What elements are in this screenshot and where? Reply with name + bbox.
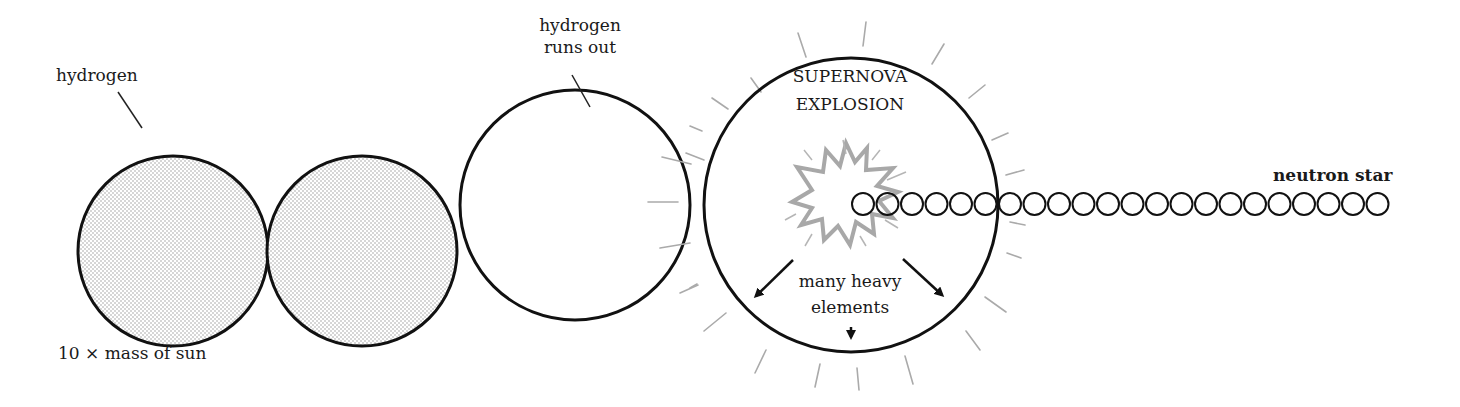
neutron-chain-circle	[1097, 193, 1119, 215]
heavy-elements-line2: elements	[770, 294, 930, 320]
neutron-chain-circle	[926, 193, 948, 215]
neutron-chain-circle	[1318, 193, 1340, 215]
depleted-star-circle	[460, 90, 690, 320]
neutron-chain-circle	[1122, 193, 1144, 215]
supernova-line2: EXPLOSION	[770, 90, 930, 118]
neutron-chain-circle	[1293, 193, 1315, 215]
hydrogen-star-circle-2	[267, 156, 457, 346]
supernova-explosion-label: SUPERNOVA EXPLOSION	[770, 62, 930, 118]
neutron-chain-circle	[1024, 193, 1046, 215]
hydrogen-runs-out-label: hydrogen runs out	[510, 14, 650, 58]
neutron-chain-circle	[950, 193, 972, 215]
star-stage-3	[460, 75, 690, 320]
neutron-chain-circle	[852, 193, 874, 215]
neutron-chain-circle	[1073, 193, 1095, 215]
neutron-chain-circle	[999, 193, 1021, 215]
hydrogen-runs-out-line1: hydrogen	[510, 14, 650, 36]
neutron-chain-circle	[1171, 193, 1193, 215]
neutron-star-label: neutron star	[1273, 164, 1392, 186]
neutron-chain-circle	[1146, 193, 1168, 215]
mass-label: 10 × mass of sun	[58, 342, 206, 364]
supernova-line1: SUPERNOVA	[770, 62, 930, 90]
neutron-chain-circle	[1220, 193, 1242, 215]
neutron-chain-circle	[1195, 193, 1217, 215]
hydrogen-runs-out-line2: runs out	[510, 36, 650, 58]
neutron-chain-circle	[1342, 193, 1364, 215]
neutron-chain-circle	[901, 193, 923, 215]
neutron-chain-circle	[1367, 193, 1389, 215]
heavy-elements-line1: many heavy	[770, 268, 930, 294]
heavy-elements-label: many heavy elements	[770, 268, 930, 320]
neutron-star-chain	[852, 193, 1389, 215]
hydrogen-label: hydrogen	[56, 64, 138, 86]
star-stage-2	[267, 156, 457, 346]
hydrogen-leader-line	[118, 92, 142, 128]
star-lifecycle-diagram	[0, 0, 1460, 407]
neutron-chain-circle	[975, 193, 997, 215]
neutron-chain-circle	[1048, 193, 1070, 215]
neutron-chain-circle	[1269, 193, 1291, 215]
neutron-chain-circle	[1244, 193, 1266, 215]
star-stage-1	[78, 92, 268, 346]
hydrogen-star-circle-1	[78, 156, 268, 346]
